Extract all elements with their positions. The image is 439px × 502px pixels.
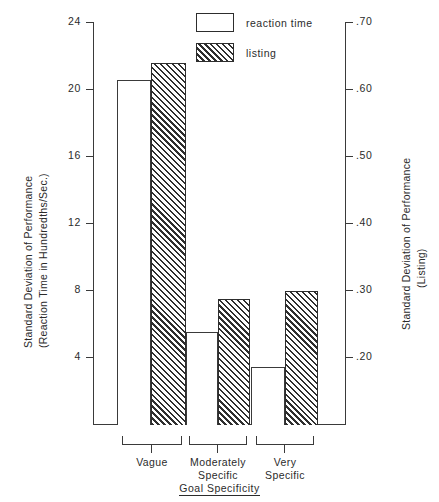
category-bracket: [122, 436, 182, 445]
category-label-vague: Vague: [116, 456, 188, 469]
right-tick-label: .60: [356, 82, 372, 94]
left-axis-title: Standard Deviation of Performance: [22, 176, 34, 348]
bar-reaction-time-moderately-specific: [186, 332, 218, 425]
category-label-line: Specific: [182, 469, 254, 482]
right-tick-label: .40: [356, 216, 372, 228]
chart-canvas: reaction time listing 24 20 16 12 8 4 .7…: [0, 0, 439, 502]
category-label-moderately-specific: Moderately Specific: [182, 456, 254, 481]
left-tick-label: 20: [68, 82, 81, 94]
legend-item-reaction-time: reaction time: [196, 12, 313, 33]
right-axis-subtitle: (Listing): [415, 248, 427, 288]
left-tick-label: 8: [75, 283, 81, 295]
category-bracket-stem: [284, 445, 285, 453]
category-bracket: [189, 436, 247, 445]
legend-swatch-open-icon: [196, 13, 234, 32]
left-axis-subtitle: (Reaction Time in Hundredths/Sec.): [37, 173, 49, 348]
right-tick-label: .70: [356, 15, 372, 27]
x-axis-title-text: Goal Specificity: [179, 482, 259, 496]
right-tick-mark: [346, 290, 353, 291]
bar-listing-very-specific: [285, 291, 318, 425]
left-tick-label: 4: [75, 350, 81, 362]
right-tick-mark: [346, 89, 353, 90]
category-bracket: [256, 436, 314, 445]
bar-reaction-time-vague: [117, 80, 151, 425]
right-tick-mark: [346, 357, 353, 358]
bar-listing-moderately-specific: [218, 299, 250, 425]
bar-listing-vague: [151, 63, 186, 425]
left-tick-mark: [86, 89, 93, 90]
legend-item-listing: listing: [196, 42, 313, 63]
legend-label-listing: listing: [246, 47, 276, 59]
legend-label-reaction-time: reaction time: [246, 17, 313, 29]
category-label-line: Vague: [116, 456, 188, 469]
left-axis-line: [93, 22, 94, 425]
category-label-line: Moderately: [182, 456, 254, 469]
right-tick-mark: [346, 156, 353, 157]
category-bracket-stem: [151, 445, 152, 453]
left-tick-mark: [86, 156, 93, 157]
right-tick-mark: [346, 22, 353, 23]
category-label-very-specific: Very Specific: [249, 456, 321, 481]
x-axis-title: Goal Specificity: [0, 482, 439, 494]
left-tick-mark: [86, 290, 93, 291]
right-tick-mark: [346, 223, 353, 224]
right-axis-title: Standard Deviation of Performance: [400, 158, 412, 330]
category-bracket-stem: [217, 445, 218, 453]
left-tick-mark: [86, 357, 93, 358]
right-tick-label: .30: [356, 283, 372, 295]
category-label-line: Specific: [249, 469, 321, 482]
right-tick-label: .50: [356, 149, 372, 161]
right-tick-label: .20: [356, 350, 372, 362]
legend-swatch-hatched-icon: [196, 43, 234, 62]
left-tick-label: 12: [68, 216, 81, 228]
left-tick-label: 24: [68, 15, 81, 27]
chart-legend: reaction time listing: [196, 12, 313, 72]
left-tick-mark: [86, 22, 93, 23]
left-tick-mark: [86, 223, 93, 224]
left-tick-label: 16: [68, 149, 81, 161]
bar-reaction-time-very-specific: [251, 367, 285, 425]
category-label-line: Very: [249, 456, 321, 469]
